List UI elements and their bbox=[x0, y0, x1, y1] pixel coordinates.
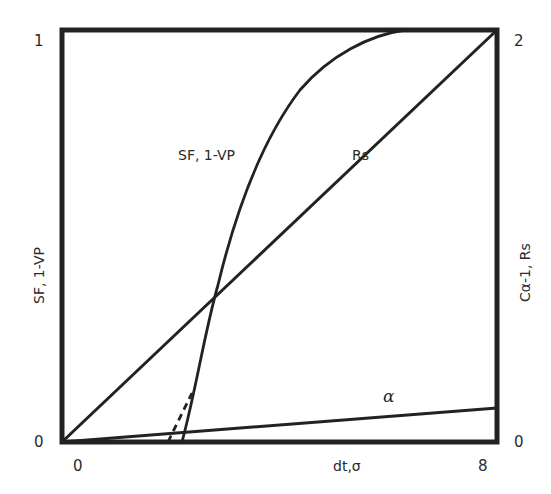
rs-curve-label: Rs bbox=[352, 147, 369, 163]
x-tick-0: 0 bbox=[73, 457, 83, 475]
x-axis-label: dt,σ bbox=[333, 458, 361, 474]
y-left-axis-label: SF, 1-VP bbox=[31, 247, 47, 304]
alpha-line bbox=[62, 408, 497, 442]
rs-line bbox=[62, 30, 497, 442]
chart-canvas: 1 0 2 0 0 8 dt,σ SF, 1-VP Cα-1, Rs SF, 1… bbox=[0, 0, 551, 494]
y-right-axis-label: Cα-1, Rs bbox=[517, 243, 533, 302]
y-right-tick-2: 2 bbox=[514, 32, 524, 50]
y-left-tick-1: 1 bbox=[34, 32, 44, 50]
sf-curve bbox=[182, 30, 405, 442]
y-left-tick-0: 0 bbox=[34, 433, 44, 451]
x-tick-8: 8 bbox=[478, 457, 488, 475]
alpha-curve-label: α bbox=[383, 386, 395, 406]
y-right-tick-0: 0 bbox=[514, 433, 524, 451]
sf-curve-label: SF, 1-VP bbox=[178, 147, 235, 163]
